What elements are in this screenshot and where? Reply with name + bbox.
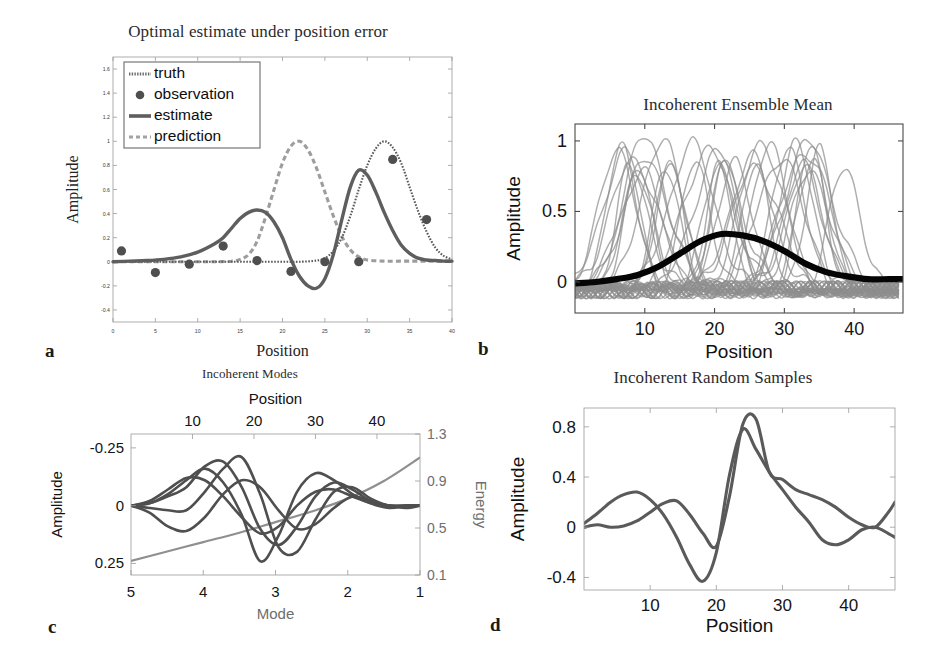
panel-a-legend: truthobservationestimateprediction (124, 62, 260, 148)
svg-text:20: 20 (246, 412, 263, 429)
sample-curve (584, 414, 895, 548)
panel-b-plot: 1020304000.51PositionAmplitude (468, 0, 936, 370)
svg-text:prediction: prediction (154, 127, 221, 144)
svg-text:0.25: 0.25 (95, 554, 124, 571)
svg-text:30: 30 (364, 328, 370, 334)
svg-text:0.4: 0.4 (103, 211, 110, 217)
svg-text:0.1: 0.1 (427, 567, 447, 583)
series-estimate (113, 170, 452, 289)
svg-text:1.2: 1.2 (103, 114, 110, 120)
svg-text:estimate: estimate (154, 106, 213, 123)
svg-text:0: 0 (557, 272, 567, 292)
svg-text:0.4: 0.4 (552, 468, 576, 487)
svg-text:0.8: 0.8 (552, 418, 576, 437)
panel-a-plot: 0510152025303540-0.4-0.200.20.40.60.811.… (0, 0, 470, 345)
svg-text:40: 40 (839, 596, 858, 615)
svg-text:1.6: 1.6 (103, 66, 110, 72)
svg-text:3: 3 (271, 583, 279, 600)
observation-marker (422, 215, 431, 224)
panel-c-plot: 10203040Position54321Mode-0.2500.25Ampli… (0, 366, 470, 626)
svg-text:Position: Position (256, 342, 308, 359)
observation-marker (354, 257, 363, 266)
svg-text:1: 1 (416, 583, 424, 600)
svg-text:4: 4 (199, 583, 207, 600)
svg-text:0.6: 0.6 (103, 187, 110, 193)
svg-text:0.9: 0.9 (427, 473, 447, 489)
svg-text:Mode: Mode (257, 605, 295, 622)
observation-marker (286, 267, 295, 276)
svg-text:Position: Position (705, 341, 773, 362)
svg-text:10: 10 (195, 328, 201, 334)
ensemble-lines (575, 137, 903, 299)
panel-b-letter: b (478, 338, 489, 360)
panel-d-title: Incoherent Random Samples (558, 368, 868, 388)
svg-text:0.5: 0.5 (427, 520, 447, 536)
svg-text:15: 15 (237, 328, 243, 334)
svg-text:1.4: 1.4 (103, 90, 110, 96)
svg-text:0.2: 0.2 (103, 235, 110, 241)
panel-d-letter: d (490, 614, 501, 636)
svg-text:-0.4: -0.4 (101, 307, 110, 313)
svg-text:2: 2 (344, 583, 352, 600)
svg-text:1: 1 (557, 131, 567, 151)
svg-text:20: 20 (705, 319, 725, 339)
svg-text:5: 5 (127, 583, 135, 600)
panel-b: Incoherent Ensemble Mean 1020304000.51Po… (468, 0, 936, 370)
svg-text:0: 0 (107, 259, 110, 265)
panel-d-plot: 10203040-0.400.40.8PositionAmplitude (468, 366, 936, 626)
observation-marker (185, 260, 194, 269)
panel-a-letter: a (45, 340, 55, 362)
ensemble-mean-line (575, 234, 903, 284)
observation-marker (252, 256, 261, 265)
svg-text:30: 30 (774, 319, 794, 339)
panel-a-title: Optimal estimate under position error (108, 22, 408, 42)
mode-curve (131, 469, 420, 562)
svg-text:40: 40 (449, 328, 455, 334)
svg-text:30: 30 (773, 596, 792, 615)
svg-text:-0.4: -0.4 (547, 568, 576, 587)
svg-text:25: 25 (322, 328, 328, 334)
sample-curve (584, 429, 895, 582)
panel-d: Incoherent Random Samples 10203040-0.400… (468, 366, 936, 669)
observation-marker (320, 257, 329, 266)
svg-text:0: 0 (116, 497, 124, 514)
observation-marker (117, 246, 126, 255)
observation-marker (219, 242, 228, 251)
svg-text:Amplitude: Amplitude (503, 176, 524, 261)
svg-text:10: 10 (635, 319, 655, 339)
svg-text:0.5: 0.5 (542, 201, 567, 221)
svg-text:35: 35 (407, 328, 413, 334)
panel-c-letter: c (48, 616, 56, 638)
svg-text:0: 0 (567, 518, 576, 537)
panel-a: Optimal estimate under position error 05… (0, 0, 470, 370)
svg-text:Position: Position (706, 615, 774, 636)
svg-text:10: 10 (184, 412, 201, 429)
svg-text:40: 40 (369, 412, 386, 429)
svg-text:-0.2: -0.2 (101, 283, 110, 289)
svg-text:20: 20 (280, 328, 286, 334)
svg-text:Amplitude: Amplitude (507, 457, 528, 542)
svg-text:Amplitude: Amplitude (64, 155, 82, 223)
svg-text:10: 10 (641, 596, 660, 615)
svg-text:1: 1 (107, 138, 110, 144)
panel-c-title: Incoherent Modes (120, 366, 380, 382)
svg-text:0.8: 0.8 (103, 162, 110, 168)
svg-text:truth: truth (154, 64, 185, 81)
observation-marker (151, 268, 160, 277)
svg-text:30: 30 (307, 412, 324, 429)
svg-text:1.3: 1.3 (427, 426, 447, 442)
observation-marker (388, 155, 397, 164)
svg-text:-0.25: -0.25 (90, 439, 124, 456)
svg-text:0: 0 (112, 328, 115, 334)
panel-b-title: Incoherent Ensemble Mean (573, 95, 903, 115)
panel-c: Incoherent Modes 10203040Position54321Mo… (0, 366, 470, 669)
svg-text:Position: Position (249, 390, 302, 407)
svg-text:20: 20 (707, 596, 726, 615)
figure-root: Optimal estimate under position error 05… (0, 0, 936, 669)
svg-text:observation: observation (154, 85, 234, 102)
svg-text:40: 40 (844, 319, 864, 339)
svg-text:5: 5 (154, 328, 157, 334)
svg-text:Amplitude: Amplitude (48, 471, 65, 538)
